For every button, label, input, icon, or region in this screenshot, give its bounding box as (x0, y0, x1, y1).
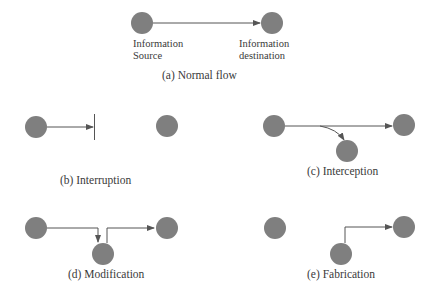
source-node (264, 217, 286, 239)
source-label: Information Source (133, 38, 183, 62)
destination-node (393, 216, 415, 238)
source-node (25, 217, 47, 239)
caption-modification: (d) Modification (68, 268, 144, 280)
panel-normal-flow (131, 12, 283, 34)
caption-fabrication: (e) Fabrication (307, 268, 375, 280)
security-threats-diagram (0, 0, 438, 296)
source-node (131, 12, 153, 34)
destination-node (393, 114, 415, 136)
panel-fabrication (264, 216, 415, 265)
caption-normal-flow: (a) Normal flow (162, 69, 237, 81)
panel-interruption (25, 114, 178, 140)
destination-node (156, 115, 178, 137)
caption-interruption: (b) Interruption (60, 174, 131, 186)
panel-interception (263, 114, 415, 162)
destination-node (156, 217, 178, 239)
fabricated-flow-arrow (345, 227, 392, 243)
destination-label: Information destination (239, 38, 289, 62)
destination-node (261, 12, 283, 34)
interception-arrow (320, 126, 344, 140)
flow-to-modifier-arrow (47, 228, 98, 242)
source-node (25, 116, 47, 138)
destination-label-line2: destination (239, 50, 289, 62)
destination-label-line1: Information (239, 38, 289, 50)
fabricator-node (330, 243, 352, 265)
modifier-node (92, 243, 114, 265)
source-label-line1: Information (133, 38, 183, 50)
interceptor-node (336, 140, 358, 162)
source-label-line2: Source (133, 50, 183, 62)
panel-modification (25, 217, 178, 265)
source-node (263, 115, 285, 137)
modified-flow-arrow (107, 228, 154, 243)
caption-interception: (c) Interception (307, 165, 378, 177)
